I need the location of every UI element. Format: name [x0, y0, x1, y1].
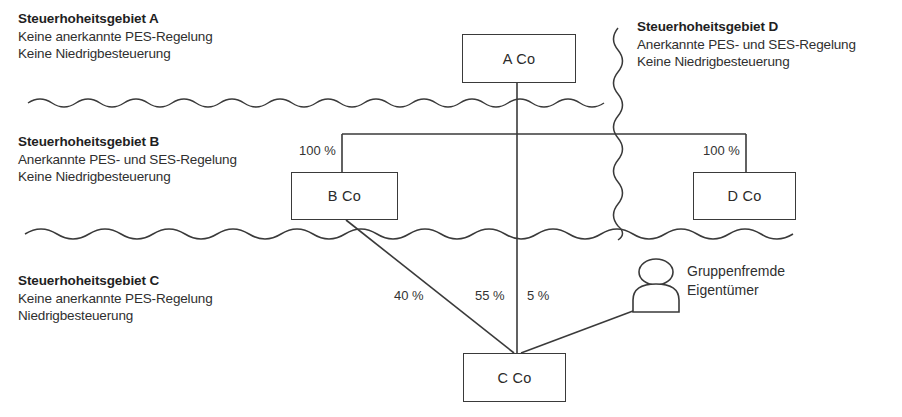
region-c-line-2: Niedrigbesteuerung [18, 307, 213, 325]
region-d-title: Steuerhoheitsgebiet D [637, 18, 856, 36]
region-d-line-1: Anerkannte PES- und SES-Regelung [637, 36, 856, 54]
region-label-a: Steuerhoheitsgebiet A Keine anerkannte P… [18, 10, 213, 63]
region-label-d: Steuerhoheitsgebiet D Anerkannte PES- un… [637, 18, 856, 71]
pct-label-a-to-c: 55 % [474, 288, 506, 303]
region-c-line-1: Keine anerkannte PES-Regelung [18, 290, 213, 308]
region-c-title: Steuerhoheitsgebiet C [18, 272, 213, 290]
region-a-line-2: Keine Niedrigbesteuerung [18, 45, 213, 63]
entity-box-d-co[interactable]: D Co [693, 172, 796, 220]
entity-box-c-co[interactable]: C Co [463, 353, 566, 402]
region-label-c: Steuerhoheitsgebiet C Keine anerkannte P… [18, 272, 213, 325]
region-label-b: Steuerhoheitsgebiet B Anerkannte PES- un… [18, 133, 237, 186]
owner-label-line-1: Gruppenfremde [687, 262, 785, 281]
diagram-canvas: Steuerhoheitsgebiet A Keine anerkannte P… [0, 0, 902, 417]
region-b-title: Steuerhoheitsgebiet B [18, 133, 237, 151]
entity-box-a-co[interactable]: A Co [462, 34, 576, 83]
edge-b-to-c [346, 220, 514, 353]
wavy-border-b-c [25, 229, 793, 239]
region-a-title: Steuerhoheitsgebiet A [18, 10, 213, 28]
region-b-line-2: Keine Niedrigbesteuerung [18, 168, 237, 186]
region-d-line-2: Keine Niedrigbesteuerung [637, 53, 856, 71]
owner-label: Gruppenfremde Eigentümer [687, 262, 785, 300]
edge-owner-to-c [521, 311, 633, 353]
region-b-line-1: Anerkannte PES- und SES-Regelung [18, 151, 237, 169]
region-a-line-1: Keine anerkannte PES-Regelung [18, 28, 213, 46]
entity-box-b-co[interactable]: B Co [291, 172, 398, 220]
pct-label-a-to-b: 100 % [298, 143, 337, 158]
pct-label-a-to-d: 100 % [702, 143, 741, 158]
pct-label-owner-to-c: 5 % [526, 288, 550, 303]
pct-label-b-to-c: 40 % [393, 288, 425, 303]
owner-label-line-2: Eigentümer [687, 281, 785, 300]
person-icon [633, 259, 679, 312]
